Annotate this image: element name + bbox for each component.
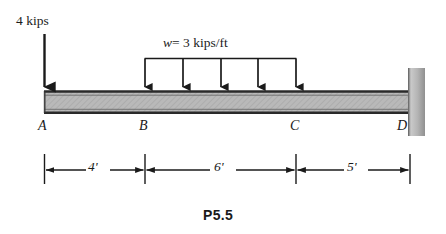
node-label-b: B <box>139 119 148 133</box>
distributed-load-group <box>145 59 297 88</box>
figure-caption: P5.5 <box>203 208 233 222</box>
distributed-load-symbol: w <box>163 35 172 50</box>
fixed-support-wall <box>408 68 425 136</box>
dimension-label-ab: 4' <box>88 160 98 174</box>
distributed-load-label: w= 3 kips/ft <box>163 36 228 50</box>
beam-diagram-figure: 4 kips w= 3 kips/ft A B C D 4' 6' 5' P5.… <box>0 0 446 234</box>
node-label-d: D <box>397 119 407 133</box>
dimension-label-bc: 6' <box>214 160 224 174</box>
point-load-label: 4 kips <box>16 14 49 28</box>
beam-member <box>44 92 410 113</box>
node-label-a: A <box>38 119 47 133</box>
distributed-load-value: = 3 kips/ft <box>172 35 228 50</box>
dimension-label-cd: 5' <box>347 160 357 174</box>
node-label-c: C <box>290 119 299 133</box>
